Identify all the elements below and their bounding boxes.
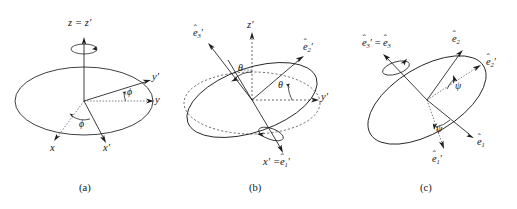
yprime-axis-line [84, 82, 145, 101]
panel-c-graphics [341, 0, 517, 209]
prime-mark: ′ [311, 41, 313, 52]
label-e1: ˆe1 [477, 137, 485, 148]
label-x: x [50, 143, 55, 154]
e2prime-axis-dashed-line [427, 68, 476, 100]
equals-sign: = [372, 37, 382, 48]
subscript-3: 3 [387, 42, 390, 49]
label-e2-prime: ˆe2′ [303, 42, 313, 53]
xprime-equals-text: x′ = [263, 156, 280, 167]
panel-b: z′ y′ ˆe3′ ˆe2′ x′ =ˆe1′ θ θ (b) [170, 0, 345, 209]
angle-theta-upper: θ [238, 62, 243, 73]
subscript-1: 1 [481, 141, 484, 148]
angle-theta-lower: θ [278, 79, 283, 90]
caption-b: (b) [249, 182, 261, 193]
label-e3-prime: ˆe3′ [193, 28, 203, 39]
panel-a-graphics [0, 0, 172, 209]
label-x-prime: x′ [103, 143, 110, 154]
prime-mark: ′ [288, 156, 290, 167]
angle-phi-upper: ϕ [127, 86, 132, 97]
euler-angles-figure: z = z′ y′ y x x′ ϕ ϕ (a) [0, 0, 517, 209]
e2prime-axis-line [252, 60, 299, 100]
prime-mark: ′ [494, 56, 496, 67]
label-e3prime-equals-e3: ˆe3′ = ˆe3 [362, 38, 391, 49]
e3prime-e3-axis-line [387, 58, 427, 100]
prime-mark: ′ [201, 27, 203, 38]
label-e2: ˆe2 [452, 34, 460, 45]
panel-a: z = z′ y′ y x x′ ϕ ϕ (a) [0, 0, 172, 209]
e2prime-axis-arrowhead [473, 65, 481, 71]
x-axis-arrowhead [54, 134, 61, 141]
label-e1-prime: ˆe1′ [432, 154, 442, 165]
label-y-prime: y′ [321, 92, 328, 103]
hat-icon: ˆ [281, 153, 284, 162]
caption-c: (c) [420, 182, 432, 193]
label-z-equals-zprime: z = z′ [68, 18, 91, 29]
angle-psi-upper: ψ [455, 80, 461, 91]
xprime-e1prime-axis-line [252, 100, 280, 147]
angle-phi-lower: ϕ [79, 118, 84, 129]
theta-lower-arc [288, 86, 292, 100]
label-e2-prime: ˆe2′ [486, 57, 496, 68]
e1-axis-line [427, 100, 469, 134]
label-y-prime: y′ [152, 72, 159, 83]
original-plane-ellipse [184, 72, 320, 134]
xprime-axis-line [84, 101, 103, 137]
panel-c: ˆe3′ = ˆe3 ˆe2 ˆe2′ ˆe1 ˆe1′ ψ ψ (c) [341, 0, 517, 209]
e3prime-axis-arrowhead [208, 43, 215, 51]
e3prime-axis-line [212, 48, 252, 100]
prime-mark: ′ [440, 153, 442, 164]
subscript-2: 2 [456, 38, 459, 45]
phi-upper-arc [124, 93, 126, 101]
e3-spin-arrowhead [401, 59, 408, 66]
angle-psi-lower: ψ [436, 123, 442, 134]
label-y: y [155, 95, 160, 106]
label-xprime-equals-e1prime: x′ =ˆe1′ [263, 157, 291, 168]
label-z-prime: z′ [247, 20, 254, 31]
caption-a: (a) [79, 182, 91, 193]
